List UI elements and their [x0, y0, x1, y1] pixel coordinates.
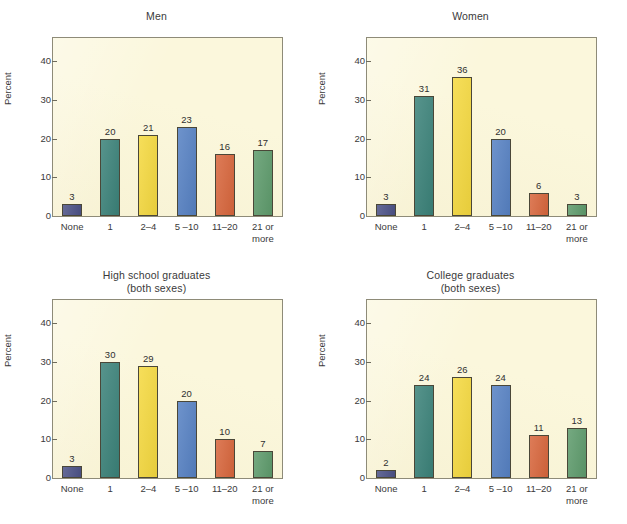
y-axis-label: Percent [2, 72, 13, 105]
y-axis-label: Percent [316, 334, 327, 367]
bar [491, 385, 511, 478]
panel-title: College graduates (both sexes) [314, 269, 627, 294]
bar [376, 204, 396, 216]
y-tick-label: 10 [20, 172, 51, 182]
y-tick-label: 20 [20, 134, 51, 144]
y-tick-label: 10 [20, 434, 51, 444]
bar-column: 3 [53, 300, 91, 478]
bar [452, 77, 472, 216]
bar-column: 31 [405, 38, 443, 216]
bar-value-label: 26 [443, 364, 481, 375]
bar-column: 30 [91, 300, 129, 478]
bars-group: 331362063 [367, 38, 596, 216]
bars-group: 3302920107 [53, 300, 282, 478]
bar-value-label: 20 [91, 126, 129, 137]
y-axis-label: Percent [2, 334, 13, 367]
y-tick-label: 10 [334, 172, 365, 182]
bar [62, 466, 82, 478]
bar-column: 2 [367, 300, 405, 478]
bar-value-label: 2 [367, 457, 405, 468]
y-tick-label: 30 [334, 357, 365, 367]
bar [100, 362, 120, 478]
bar-column: 24 [405, 300, 443, 478]
bar-column: 29 [129, 300, 167, 478]
bar-value-label: 10 [206, 426, 244, 437]
y-tick-label: 30 [334, 95, 365, 105]
bar [177, 127, 197, 216]
chart-panel-men: Men Percent 010203040 32021231617 None12… [0, 0, 313, 262]
bar [567, 428, 587, 478]
bar [529, 435, 549, 478]
bar-column: 3 [53, 38, 91, 216]
y-tick-label: 20 [334, 134, 365, 144]
y-tick-label: 40 [20, 318, 51, 328]
bar [414, 96, 434, 216]
bar [177, 401, 197, 478]
bar-value-label: 3 [53, 453, 91, 464]
y-tick-label: 0 [334, 211, 365, 221]
bar [491, 139, 511, 216]
bar-value-label: 7 [244, 438, 282, 449]
bar [138, 135, 158, 216]
y-tick-label: 0 [334, 473, 365, 483]
x-tick-label: 21 or more [238, 221, 288, 244]
panel-title: High school graduates (both sexes) [0, 269, 313, 294]
bar [215, 154, 235, 216]
chart-panel-women: Women Percent 010203040 331362063 None12… [314, 0, 627, 262]
bar-value-label: 3 [367, 191, 405, 202]
bar-value-label: 11 [520, 422, 558, 433]
bar [138, 366, 158, 478]
bar-value-label: 24 [405, 372, 443, 383]
panel-title: Women [314, 10, 627, 23]
bar-column: 20 [91, 38, 129, 216]
x-tick-label: 21 or more [238, 483, 288, 506]
bar-value-label: 6 [520, 180, 558, 191]
bar-column: 3 [367, 38, 405, 216]
bar-column: 21 [129, 38, 167, 216]
bar [414, 385, 434, 478]
bars-group: 22426241113 [367, 300, 596, 478]
bars-group: 32021231617 [53, 38, 282, 216]
bar-value-label: 29 [129, 353, 167, 364]
bar-column: 26 [443, 300, 481, 478]
bar-value-label: 3 [558, 191, 596, 202]
bar-column: 3 [558, 38, 596, 216]
bar-value-label: 24 [482, 372, 520, 383]
bar-column: 20 [168, 300, 206, 478]
bar [567, 204, 587, 216]
chart-panel-college-graduates: College graduates (both sexes) Percent 0… [314, 262, 627, 524]
bar [100, 139, 120, 216]
bar-column: 16 [206, 38, 244, 216]
chart-panel-high-school-graduates: High school graduates (both sexes) Perce… [0, 262, 313, 524]
x-axis-labels: None12–45 –1011–2021 or more [53, 483, 282, 517]
y-tick-label: 30 [20, 95, 51, 105]
bar-column: 13 [558, 300, 596, 478]
bar-value-label: 36 [443, 64, 481, 75]
y-tick-label: 40 [334, 318, 365, 328]
y-axis-label: Percent [316, 72, 327, 105]
y-tick-label: 0 [20, 211, 51, 221]
y-tick-label: 20 [334, 396, 365, 406]
bar-column: 11 [520, 300, 558, 478]
y-tick-label: 10 [334, 434, 365, 444]
bar-column: 7 [244, 300, 282, 478]
bar-column: 6 [520, 38, 558, 216]
x-axis-labels: None12–45 –1011–2021 or more [367, 483, 596, 517]
bar-value-label: 13 [558, 415, 596, 426]
panel-title: Men [0, 10, 313, 23]
bar-value-label: 20 [168, 388, 206, 399]
bar-value-label: 3 [53, 191, 91, 202]
bar-value-label: 21 [129, 122, 167, 133]
bar [253, 150, 273, 216]
bar-value-label: 20 [482, 126, 520, 137]
bar-column: 10 [206, 300, 244, 478]
y-tick-label: 40 [334, 56, 365, 66]
bar [62, 204, 82, 216]
bar [452, 377, 472, 478]
bar-value-label: 30 [91, 349, 129, 360]
bar-value-label: 17 [244, 137, 282, 148]
bar-value-label: 16 [206, 141, 244, 152]
y-tick-label: 40 [20, 56, 51, 66]
y-tick-label: 30 [20, 357, 51, 367]
x-tick-label: 21 or more [552, 221, 602, 244]
